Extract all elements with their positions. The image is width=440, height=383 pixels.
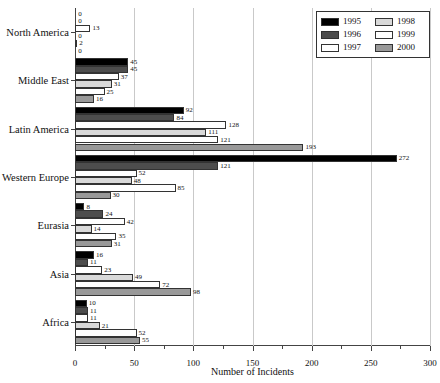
x-tick-minor	[282, 346, 283, 349]
category-label: Middle East	[18, 75, 69, 86]
bar	[75, 58, 128, 65]
legend-item: 2000	[375, 43, 425, 52]
bar	[75, 95, 94, 102]
x-tick	[371, 346, 372, 351]
category-label: Africa	[42, 316, 69, 327]
bar-row: 23	[75, 266, 430, 273]
bar	[75, 337, 140, 344]
bar-row: 121	[75, 162, 430, 169]
legend-swatch	[321, 31, 339, 39]
x-tick-minor	[400, 346, 401, 349]
bar-row: 14	[75, 225, 430, 232]
x-tick	[253, 346, 254, 351]
bar-row: 35	[75, 233, 430, 240]
bar	[75, 203, 84, 210]
legend-swatch	[375, 44, 393, 52]
bar	[75, 170, 137, 177]
bar-row: 121	[75, 136, 430, 143]
bar-row: 55	[75, 337, 430, 344]
bar-group: Eurasia82442143531	[75, 203, 430, 247]
bar-group: Latin America9284128111121193	[75, 107, 430, 151]
bar	[75, 121, 226, 128]
bar	[75, 259, 88, 266]
bar-row: 10	[75, 300, 430, 307]
x-tick-minor	[105, 346, 106, 349]
bar	[75, 288, 191, 295]
bar	[75, 300, 87, 307]
bar-row: 52	[75, 329, 430, 336]
category-label: North America	[6, 27, 69, 38]
legend-label: 1998	[397, 17, 415, 26]
bar-chart: 050100150200250300 North America0013020M…	[0, 0, 440, 383]
bar-row: 84	[75, 114, 430, 121]
bar-row: 31	[75, 80, 430, 87]
bar-value-label: 55	[140, 336, 149, 344]
plot-area: 050100150200250300 North America0013020M…	[75, 8, 430, 346]
legend-swatch	[375, 31, 393, 39]
bar	[75, 225, 92, 232]
legend-label: 2000	[397, 43, 415, 52]
bar	[75, 307, 88, 314]
bar-row: 11	[75, 259, 430, 266]
legend-swatch	[321, 18, 339, 26]
bar	[75, 192, 111, 199]
bar	[75, 114, 174, 121]
bar-group: Asia161123497298	[75, 251, 430, 295]
bar-row: 31	[75, 240, 430, 247]
bar	[75, 136, 218, 143]
category-label: Asia	[50, 268, 69, 279]
bar-row: 272	[75, 155, 430, 162]
x-tick-minor	[223, 346, 224, 349]
bar-row: 37	[75, 73, 430, 80]
bar-row: 11	[75, 307, 430, 314]
legend-item: 1998	[375, 17, 425, 26]
bar	[75, 274, 133, 281]
legend-label: 1995	[343, 17, 361, 26]
bar-value-label: 193	[303, 143, 316, 151]
bar-row: 25	[75, 88, 430, 95]
bar-row: 193	[75, 144, 430, 151]
category-label: Western Europe	[2, 171, 69, 182]
bar	[75, 129, 206, 136]
bar	[75, 314, 88, 321]
bar	[75, 210, 103, 217]
bar	[75, 144, 303, 151]
chart-legend: 199519981996199919972000	[316, 11, 430, 58]
legend-item: 1995	[321, 17, 371, 26]
x-tick	[430, 346, 431, 351]
bar	[75, 281, 160, 288]
bar-row: 45	[75, 66, 430, 73]
legend-item: 1999	[375, 30, 425, 39]
bar	[75, 184, 176, 191]
bar	[75, 266, 102, 273]
bar-row: 92	[75, 107, 430, 114]
x-axis-title: Number of Incidents	[75, 366, 430, 377]
bar-row: 85	[75, 184, 430, 191]
legend-item: 1997	[321, 43, 371, 52]
category-label: Eurasia	[38, 220, 70, 231]
bar	[75, 162, 218, 169]
bar-value-label: 30	[111, 191, 120, 199]
category-label: Latin America	[9, 123, 69, 134]
legend-swatch	[321, 44, 339, 52]
bar-value-label: 98	[191, 288, 200, 296]
bar-value-label: 16	[94, 95, 103, 103]
x-tick-minor	[341, 346, 342, 349]
bar-value-label: 0	[76, 47, 82, 55]
bar-row: 48	[75, 177, 430, 184]
bar	[75, 322, 100, 329]
bar	[75, 107, 184, 114]
bar	[75, 177, 132, 184]
legend-label: 1996	[343, 30, 361, 39]
bar-group: Middle East454537312516	[75, 58, 430, 102]
bar	[75, 240, 112, 247]
legend-item: 1996	[321, 30, 371, 39]
bar-row: 30	[75, 192, 430, 199]
legend-label: 1997	[343, 43, 361, 52]
bar-row: 72	[75, 281, 430, 288]
bar-row: 42	[75, 218, 430, 225]
bar-row: 16	[75, 251, 430, 258]
x-tick	[134, 346, 135, 351]
bar-row: 98	[75, 288, 430, 295]
legend-label: 1999	[397, 30, 415, 39]
